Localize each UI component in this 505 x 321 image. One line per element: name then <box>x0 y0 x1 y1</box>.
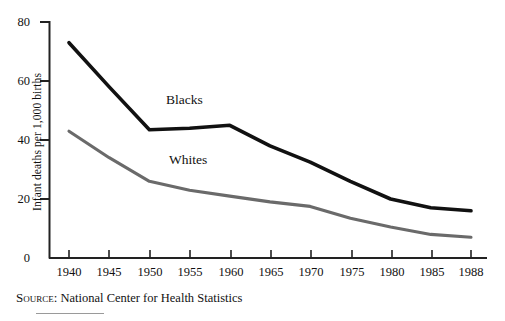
source-note: Source: National Center for Health Stati… <box>16 290 242 306</box>
line-series-blacks <box>69 43 471 211</box>
footer-rule <box>36 313 104 314</box>
y-tick-label-0: 0 <box>4 252 30 264</box>
x-tick-label-1950: 1950 <box>130 266 170 279</box>
series-label-blacks: Blacks <box>166 92 203 108</box>
y-tick-label-60: 60 <box>4 75 30 87</box>
series-label-whites: Whites <box>169 152 207 168</box>
x-tick-label-1975: 1975 <box>332 266 372 279</box>
x-tick-label-1970: 1970 <box>291 266 331 279</box>
x-tick-label-1965: 1965 <box>251 266 291 279</box>
chart-axes <box>49 21 487 259</box>
chart-plot-area <box>0 0 505 290</box>
x-tick-label-1955: 1955 <box>170 266 210 279</box>
x-tick-label-1980: 1980 <box>372 266 412 279</box>
y-axis-title: Infant deaths per 1,000 births <box>31 22 43 262</box>
source-text: National Center for Health Statistics <box>57 291 242 305</box>
source-kicker: Source: <box>16 290 57 305</box>
y-tick-label-20: 20 <box>4 193 30 205</box>
x-tick-label-1945: 1945 <box>89 266 129 279</box>
x-tick-label-1988: 1988 <box>451 266 491 279</box>
y-tick-label-80: 80 <box>4 16 30 28</box>
x-tick-label-1985: 1985 <box>412 266 452 279</box>
y-tick-label-40: 40 <box>4 134 30 146</box>
x-tick-label-1960: 1960 <box>211 266 251 279</box>
infant-mortality-line-chart: Infant deaths per 1,000 births 80 60 40 … <box>0 0 505 321</box>
x-tick-label-1940: 1940 <box>49 266 89 279</box>
